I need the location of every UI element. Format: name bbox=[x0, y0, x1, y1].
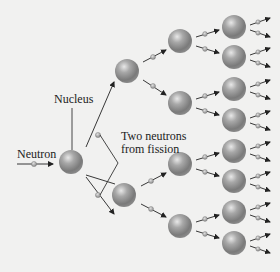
gen2-neutrons bbox=[196, 30, 219, 238]
nucleus-label: Nucleus bbox=[54, 93, 93, 106]
neutron-label: Neutron bbox=[17, 148, 56, 161]
gen1-nucleus-bottom bbox=[112, 183, 136, 207]
fission-bracket bbox=[100, 135, 118, 195]
initial-nucleus bbox=[59, 150, 83, 174]
fission-label-line2: from fission bbox=[121, 143, 179, 156]
gen3-nuclei bbox=[222, 15, 246, 255]
gen1-nucleus-top bbox=[115, 59, 139, 83]
incoming-neutron-arrow bbox=[17, 161, 53, 166]
